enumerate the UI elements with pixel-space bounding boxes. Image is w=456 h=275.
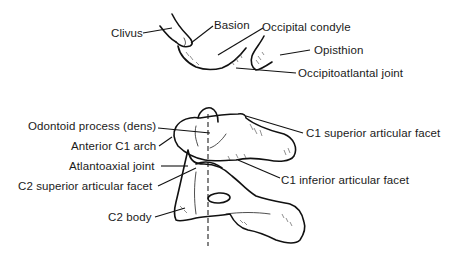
label-odontoid-process: Odontoid process (dens) xyxy=(28,120,156,133)
label-c2-body: C2 body xyxy=(108,211,152,224)
label-c2-superior-articular-facet: C2 superior articular facet xyxy=(18,180,152,193)
label-clivus: Clivus xyxy=(111,27,143,40)
label-c1-inferior-articular-facet: C1 inferior articular facet xyxy=(281,174,409,187)
label-anterior-c1-arch: Anterior C1 arch xyxy=(71,140,156,153)
label-opisthion: Opisthion xyxy=(314,44,363,57)
label-c1-superior-articular-facet: C1 superior articular facet xyxy=(306,127,440,140)
label-occipital-condyle: Occipital condyle xyxy=(262,21,351,34)
label-occipitoatlantal-joint: Occipitoatlantal joint xyxy=(298,67,403,80)
label-basion: Basion xyxy=(214,19,250,32)
label-atlantoaxial-joint: Atlantoaxial joint xyxy=(69,160,155,173)
